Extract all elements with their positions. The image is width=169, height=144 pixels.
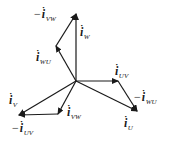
label-i-w: ·iW [80, 26, 90, 41]
vector-neg-i-uv [19, 114, 58, 115]
label-neg-i-uv: −·iUV [12, 122, 33, 137]
label-i-u: ·iU [124, 117, 133, 132]
label-i-vw: ·iVW [67, 106, 81, 121]
label-neg-i-wu: −·iWU [134, 91, 157, 106]
vector-i-wu [56, 46, 76, 81]
label-i-v: ·iV [9, 94, 17, 109]
label-neg-i-vw: −·iVW [34, 8, 56, 23]
vector-neg-i-vw [56, 14, 76, 46]
label-i-wu: ·iWU [36, 51, 51, 66]
label-i-uv: ·iUV [115, 65, 128, 80]
